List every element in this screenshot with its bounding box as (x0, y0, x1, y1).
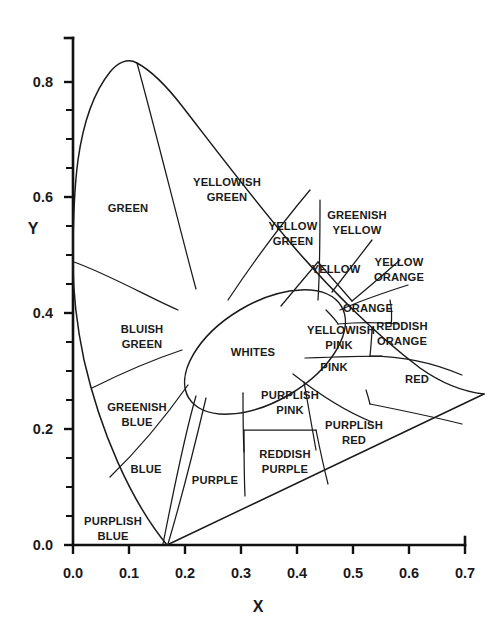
y-tick-label-2: 0.4 (33, 305, 53, 321)
region-label-red: RED (405, 373, 429, 385)
region-label-yellowish-pink-line2: PINK (325, 339, 352, 351)
divider-reddishpurple-purplishred (316, 430, 328, 484)
x-tick-label-4: 0.4 (287, 565, 307, 581)
x-tick-label-7: 0.7 (455, 565, 475, 581)
divider-yellowishpink-orange (326, 310, 338, 324)
divider-red-purplishred (370, 404, 462, 424)
region-label-purple: PURPLE (192, 474, 239, 486)
x-axis-ticks (73, 545, 465, 554)
cie-chromaticity-diagram: 0.0 0.1 0.2 0.3 0.4 0.5 0.6 0.7 0.0 0.2 … (0, 0, 504, 630)
divider-green-yellowishgreen (137, 63, 196, 289)
x-axis-title: X (253, 598, 264, 615)
x-tick-label-2: 0.2 (175, 565, 195, 581)
region-label-purplish-blue-line1: PURPLISH (84, 515, 142, 527)
region-label-yellow-green-line1: YELLOW (269, 220, 318, 232)
divider-reddishpurple-purple (244, 430, 245, 496)
chromaticity-plot-svg: 0.0 0.1 0.2 0.3 0.4 0.5 0.6 0.7 0.0 0.2 … (0, 0, 504, 630)
region-label-bluish-green-line1: BLUISH (121, 323, 164, 335)
region-label-reddish-purple-line2: PURPLE (262, 463, 309, 475)
region-label-purplish-red-line2: RED (342, 434, 366, 446)
region-label-purplish-blue-line2: BLUE (97, 530, 128, 542)
region-label-purplish-red-line1: PURPLISH (325, 419, 383, 431)
region-label-purplish-pink-line1: PURPLISH (261, 389, 319, 401)
x-tick-label-1: 0.1 (119, 565, 139, 581)
y-tick-label-3: 0.6 (33, 189, 53, 205)
region-labels: GREEN YELLOWISH GREEN YELLOW GREEN GREEN… (84, 176, 429, 542)
region-label-bluish-green-line2: GREEN (122, 338, 163, 350)
region-label-yellowish-pink-line1: YELLOWISH (307, 324, 375, 336)
region-label-greenish-yellow-line2: YELLOW (333, 224, 382, 236)
x-tick-label-0: 0.0 (63, 565, 83, 581)
divider-purple-blue (168, 398, 206, 544)
region-label-yellowish-green-line1: YELLOWISH (193, 176, 261, 188)
divider-purplishblue-blue (163, 396, 196, 544)
divider-yellowgreen-greenishyellow (318, 200, 320, 300)
y-tick-label-4: 0.8 (33, 74, 53, 90)
x-tick-label-6: 0.6 (399, 565, 419, 581)
region-label-yellow-green-line2: GREEN (273, 235, 314, 247)
region-label-whites: WHITES (231, 346, 276, 358)
region-label-reddish-orange-line2: ORANGE (377, 335, 427, 347)
x-tick-label-3: 0.3 (231, 565, 251, 581)
line-of-purples (167, 394, 484, 545)
region-label-purplish-pink-line2: PINK (276, 404, 303, 416)
region-label-yellow-orange-line2: ORANGE (374, 271, 424, 283)
region-label-greenish-yellow-line1: GREENISH (327, 209, 387, 221)
region-label-orange: ORANGE (343, 302, 393, 314)
divider-greenishblue-bluishgreen (92, 350, 182, 388)
region-label-yellowish-green-line2: GREEN (207, 191, 248, 203)
region-label-greenish-blue-line2: BLUE (121, 416, 152, 428)
region-label-pink: PINK (320, 361, 347, 373)
region-label-green: GREEN (108, 202, 149, 214)
y-tick-label-1: 0.2 (33, 421, 53, 437)
region-label-blue: BLUE (130, 463, 161, 475)
divider-pink-red (366, 390, 370, 404)
y-tick-label-0: 0.0 (33, 537, 53, 553)
x-tick-label-5: 0.5 (343, 565, 363, 581)
y-axis-ticks (64, 82, 73, 545)
region-label-reddish-orange-line1: REDDISH (376, 320, 427, 332)
region-label-yellow-orange-line1: YELLOW (375, 256, 424, 268)
region-label-reddish-purple-line1: REDDISH (259, 448, 310, 460)
region-label-yellow: YELLOW (312, 263, 361, 275)
y-tick-labels: 0.0 0.2 0.4 0.6 0.8 (33, 74, 53, 553)
x-tick-labels: 0.0 0.1 0.2 0.3 0.4 0.5 0.6 0.7 (63, 565, 475, 581)
divider-green-bluishgreen (74, 262, 178, 310)
region-label-greenish-blue-line1: GREENISH (107, 401, 167, 413)
y-axis-title: Y (28, 220, 39, 237)
